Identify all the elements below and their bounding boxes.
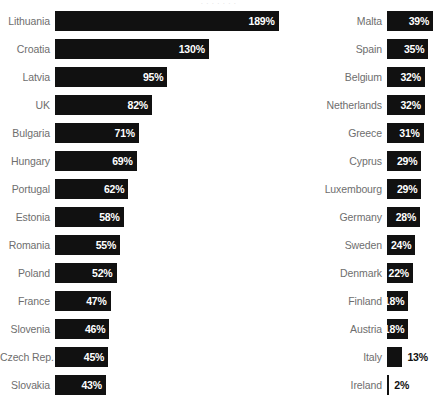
bar-value-label: 29% xyxy=(397,184,421,195)
category-label-italy: Italy xyxy=(219,352,387,363)
bar-value-label: 43% xyxy=(81,380,105,391)
bar-track: 2% xyxy=(387,375,437,395)
bar-track: 18% xyxy=(387,319,437,339)
chart-row: Slovakia43% xyxy=(0,371,218,399)
bar-value-label: 31% xyxy=(399,128,423,139)
bar-track: 46% xyxy=(55,319,218,339)
category-label-finland: Finland xyxy=(219,296,387,307)
category-label-croatia: Croatia xyxy=(0,44,55,55)
chart-row: Netherlands32% xyxy=(219,91,437,119)
chart-row: Latvia95% xyxy=(0,63,218,91)
chart-row: Italy13% xyxy=(219,343,437,371)
category-label-latvia: Latvia xyxy=(0,72,55,83)
bar-austria: 18% xyxy=(387,319,408,339)
chart-row: Estonia58% xyxy=(0,203,218,231)
chart-row: Belgium32% xyxy=(219,63,437,91)
chart-row: Czech Rep.45% xyxy=(0,343,218,371)
category-label-portugal: Portugal xyxy=(0,184,55,195)
bar-value-label: 2% xyxy=(389,375,409,395)
bar-track: 28% xyxy=(387,207,437,227)
bar-portugal: 62% xyxy=(55,179,128,199)
bar-value-label: 39% xyxy=(409,16,433,27)
chart-row: Cyprus29% xyxy=(219,147,437,175)
bar-value-label: 35% xyxy=(404,44,428,55)
bar-latvia: 95% xyxy=(55,67,167,87)
bar-track: 31% xyxy=(387,123,437,143)
bar-slovakia: 43% xyxy=(55,375,106,395)
category-label-netherlands: Netherlands xyxy=(219,100,387,111)
category-label-poland: Poland xyxy=(0,268,55,279)
bar-value-label: 95% xyxy=(143,72,167,83)
bar-track: 32% xyxy=(387,67,437,87)
bar-value-label: 130% xyxy=(179,44,209,55)
category-label-bulgaria: Bulgaria xyxy=(0,128,55,139)
category-label-austria: Austria xyxy=(219,324,387,335)
chart-row: Romania55% xyxy=(0,231,218,259)
bar-hungary: 69% xyxy=(55,151,137,171)
category-label-ireland: Ireland xyxy=(219,380,387,391)
chart-row: Ireland2% xyxy=(219,371,437,399)
category-label-belgium: Belgium xyxy=(219,72,387,83)
bar-malta: 39% xyxy=(387,11,433,31)
category-label-luxembourg: Luxembourg xyxy=(219,184,387,195)
bar-denmark: 22% xyxy=(387,263,413,283)
bar-finland: 18% xyxy=(387,291,408,311)
category-label-slovenia: Slovenia xyxy=(0,324,55,335)
category-label-slovakia: Slovakia xyxy=(0,380,55,391)
chart-row: Greece31% xyxy=(219,119,437,147)
category-label-czech-rep: Czech Rep. xyxy=(0,352,55,363)
bar-track: 189% xyxy=(55,11,218,31)
bar-poland: 52% xyxy=(55,263,117,283)
bar-value-label: 71% xyxy=(115,128,139,139)
chart-row: UK82% xyxy=(0,91,218,119)
bar-germany: 28% xyxy=(387,207,420,227)
bar-track: 45% xyxy=(55,347,218,367)
bar-value-label: 58% xyxy=(99,212,123,223)
bar-czech-rep: 45% xyxy=(55,347,108,367)
bar-value-label: 47% xyxy=(86,296,110,307)
bar-track: 82% xyxy=(55,95,218,115)
chart-row: Malta39% xyxy=(219,7,437,35)
bar-italy xyxy=(387,347,402,367)
chart-row: Slovenia46% xyxy=(0,315,218,343)
bar-luxembourg: 29% xyxy=(387,179,421,199)
bar-track: 24% xyxy=(387,235,437,255)
category-label-malta: Malta xyxy=(219,16,387,27)
bar-value-label: 13% xyxy=(402,347,427,367)
bar-value-label: 22% xyxy=(389,268,413,279)
chart-row: Finland18% xyxy=(219,287,437,315)
bar-value-label: 18% xyxy=(384,296,408,307)
bar-track: 69% xyxy=(55,151,218,171)
bar-track: 95% xyxy=(55,67,218,87)
bar-value-label: 32% xyxy=(400,100,424,111)
bar-value-label: 32% xyxy=(400,72,424,83)
bar-track: 62% xyxy=(55,179,218,199)
category-label-spain: Spain xyxy=(219,44,387,55)
bar-track: 29% xyxy=(387,151,437,171)
chart-row: Sweden24% xyxy=(219,231,437,259)
bar-track: 43% xyxy=(55,375,218,395)
category-label-uk: UK xyxy=(0,100,55,111)
bar-track: 47% xyxy=(55,291,218,311)
bar-value-label: 29% xyxy=(397,156,421,167)
chart-row: Croatia130% xyxy=(0,35,218,63)
chart-row: Austria18% xyxy=(219,315,437,343)
bar-value-label: 45% xyxy=(84,352,108,363)
bar-track: 35% xyxy=(387,39,437,59)
category-label-estonia: Estonia xyxy=(0,212,55,223)
bar-croatia: 130% xyxy=(55,39,209,59)
bar-value-label: 55% xyxy=(96,240,120,251)
bar-track: 18% xyxy=(387,291,437,311)
bar-value-label: 69% xyxy=(112,156,136,167)
chart-row: France47% xyxy=(0,287,218,315)
chart-row: Poland52% xyxy=(0,259,218,287)
bar-track: 39% xyxy=(387,11,437,31)
bar-value-label: 18% xyxy=(384,324,408,335)
bar-slovenia: 46% xyxy=(55,319,109,339)
chart-row: Spain35% xyxy=(219,35,437,63)
bar-track: 13% xyxy=(387,347,437,367)
bar-track: 71% xyxy=(55,123,218,143)
bar-greece: 31% xyxy=(387,123,424,143)
bar-value-label: 62% xyxy=(104,184,128,195)
